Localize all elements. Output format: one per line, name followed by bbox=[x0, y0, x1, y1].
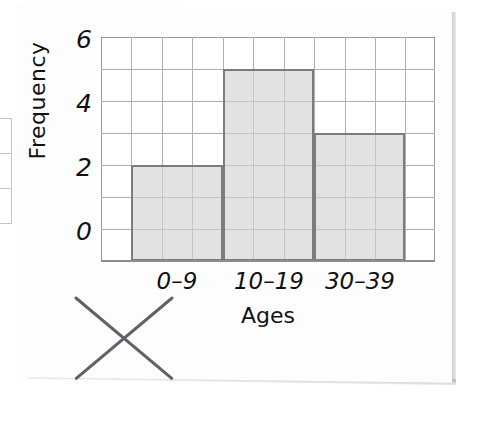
histogram-plot-area bbox=[101, 37, 435, 262]
y-tick-label-6: 6 bbox=[62, 25, 92, 54]
cross-out-x-icon bbox=[68, 296, 180, 380]
adjacent-table-fragment bbox=[0, 118, 12, 224]
x-tick-label-30-39: 30–39 bbox=[305, 268, 415, 294]
histogram-bar-0-9 bbox=[131, 165, 223, 261]
x-axis-baseline bbox=[101, 260, 435, 262]
y-tick-label-4: 4 bbox=[62, 89, 92, 118]
y-tick-label-0: 0 bbox=[62, 217, 92, 246]
histogram-bar-30-39 bbox=[314, 133, 405, 261]
screenshot-root: Frequency 0 2 4 6 0–9 10–19 30– bbox=[0, 0, 486, 424]
y-tick-label-2: 2 bbox=[62, 153, 92, 182]
y-axis-tick-labels: 0 2 4 6 bbox=[60, 37, 92, 262]
y-axis-title: Frequency bbox=[25, 41, 50, 159]
histogram-bar-10-19 bbox=[223, 69, 314, 261]
